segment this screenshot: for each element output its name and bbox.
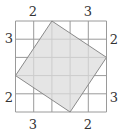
- label-right-bottom: 3: [110, 90, 118, 105]
- label-left-bottom: 2: [5, 90, 13, 105]
- tilted-square: [16, 21, 107, 112]
- pythagorean-diagram: 2 3 3 2 2 3 3 2: [0, 0, 123, 138]
- label-bottom-right: 2: [84, 117, 92, 132]
- label-left-top: 3: [5, 31, 13, 46]
- label-top-right: 3: [84, 4, 92, 19]
- label-bottom-left: 3: [29, 117, 37, 132]
- label-top-left: 2: [29, 4, 37, 19]
- label-right-top: 2: [110, 32, 118, 47]
